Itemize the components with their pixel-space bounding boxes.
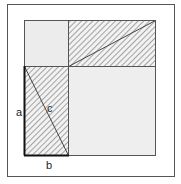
label-b: b <box>46 159 52 171</box>
label-c: c <box>47 102 53 114</box>
label-a: a <box>16 106 23 118</box>
pythagoras-diagram: a b c <box>0 0 181 184</box>
large-square-bottom-right <box>69 67 156 156</box>
small-square-top-left <box>25 21 69 67</box>
